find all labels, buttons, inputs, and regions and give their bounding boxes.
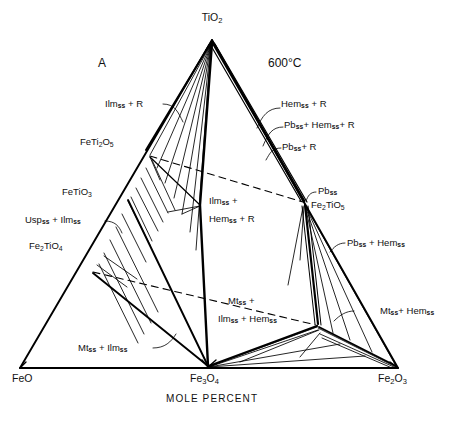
vertex-tio2-text: TiO2 (202, 11, 223, 23)
field-label-pb-hem-r: Pbss+ Hemss+ R (284, 119, 355, 132)
tieline-fan-pbss-right (305, 205, 396, 366)
vertex-label-feo: FeO (12, 373, 32, 384)
compound-label-feti2o5: FeTi2O5 (80, 136, 114, 150)
compound-label-fe2tio4: Fe2TiO4 (29, 240, 63, 254)
temperature-label: 600°C (268, 58, 302, 69)
field-label-ilm-hem-r-line1: Ilmss + (209, 195, 255, 208)
boundary-fe3o4-lowernode (209, 326, 317, 366)
field-label-mt-ilm-hem-line2: Ilmss + Hemss (218, 313, 277, 326)
tieline-fan-left-lower (131, 157, 175, 241)
field-label-mt-hem: Mtss+ Hemss (380, 305, 434, 318)
tieline-fan-ilm-mt (99, 201, 158, 343)
tieline-fan-tio2-left-heavy (146, 44, 210, 150)
tieline-web-lower-right (209, 330, 365, 367)
compound-label-fe2tio5: Fe2TiO5 (311, 199, 345, 213)
panel-letter: A (98, 58, 106, 69)
field-label-mt-ilm-hem: Mtss + Ilmss + Hemss (218, 295, 277, 327)
ternary-phase-diagram-figure: TiO2 A 600°C Ilmss + R Hemss + R Pbss+ H… (0, 0, 470, 426)
tieline-fan-central (168, 206, 200, 214)
field-label-ilm-hem-r: Ilmss + Hemss + R (209, 195, 255, 227)
vertex-label-tio2: TiO2 (190, 12, 234, 26)
field-label-usp-ilm: Uspss + Ilmss (25, 214, 81, 227)
tieline-fan-pbss-fe3o4 (288, 206, 304, 285)
field-label-pb-r: Pbss+ R (282, 141, 316, 154)
field-label-mt-ilm: Mtss + Ilmss (78, 342, 128, 355)
boundary-lowernode-fe2o3 (319, 327, 396, 366)
boundary-feti2o5-interior (150, 157, 200, 205)
compound-label-pbss: Pbss (318, 185, 337, 198)
field-label-ilm-hem-r-line2: Hemss + R (209, 213, 255, 226)
field-label-mt-ilm-hem-line1: Mtss + (218, 295, 277, 308)
axis-caption: MOLE PERCENT (166, 393, 258, 404)
field-label-ilm-r: Ilmss + R (105, 98, 143, 111)
vertex-label-fe3o4: Fe3O4 (190, 373, 219, 387)
vertex-label-fe2o3: Fe2O3 (378, 373, 407, 387)
field-label-hem-r: Hemss + R (281, 98, 327, 111)
compound-label-fetio3: FeTiO3 (62, 186, 92, 200)
field-label-pb-hem: Pbss + Hemss (347, 237, 405, 250)
